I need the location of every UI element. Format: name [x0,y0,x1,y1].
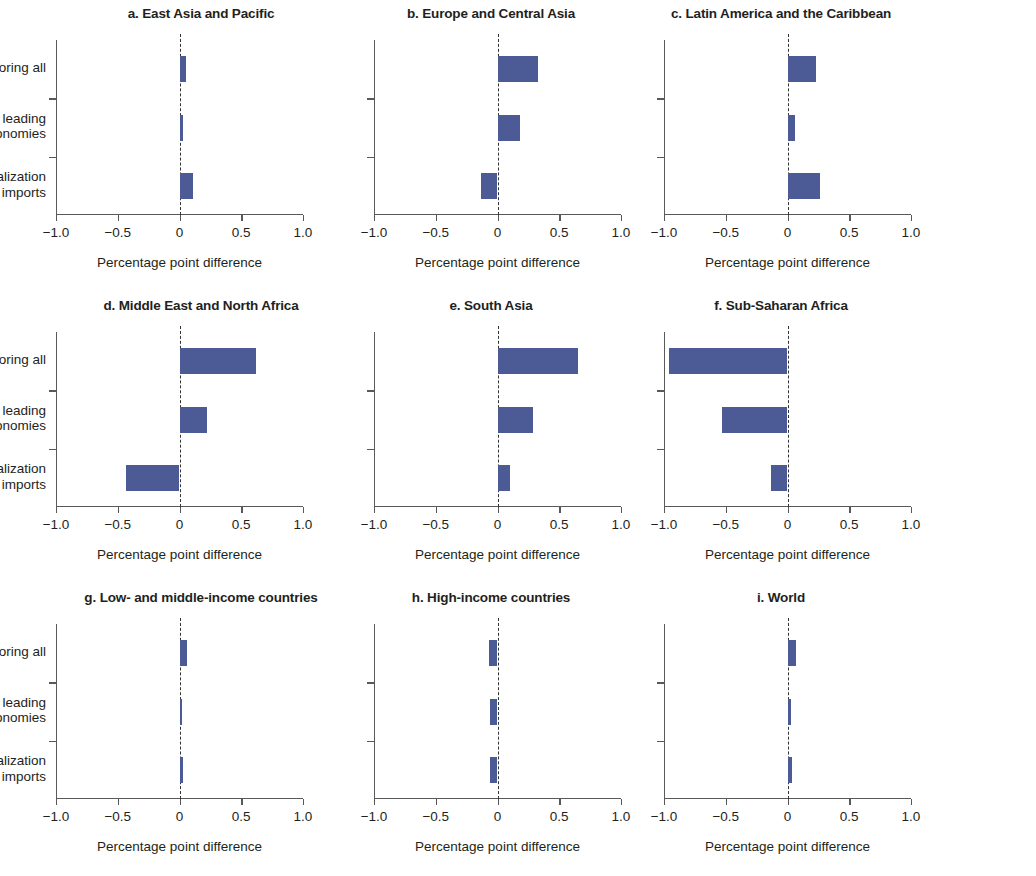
x-axis-tick-label: 0 [494,517,502,532]
bar-h-2 [490,757,497,783]
bar-g-0 [180,640,187,666]
y-axis-tick [367,741,374,742]
x-axis-tick-label: 0.5 [550,517,569,532]
x-axis-tick [303,507,304,513]
x-axis-tick-label: −0.5 [422,517,449,532]
bar-i-0 [788,640,797,666]
panel-c-title: c. Latin America and the Caribbean [636,6,926,21]
panel-h-xaxis-title: Percentage point difference [374,839,621,854]
x-axis-tick [56,799,57,805]
x-axis-tick-label: 1.0 [612,225,631,240]
x-axis-tick-label: 0 [176,809,184,824]
y-axis-tick [657,390,664,391]
panel-d-plot: −1.0−0.500.51.0 [56,332,303,507]
x-axis-tick-label: −1.0 [361,517,388,532]
bar-f-1 [722,407,787,433]
category-label-line: economies [0,126,46,142]
x-axis-tick [180,215,181,221]
x-axis-tick [118,799,119,805]
x-axis-tick [788,215,789,221]
x-axis-tick [664,799,665,805]
panel-a-plot: −1.0−0.500.51.0 [56,40,303,215]
bar-h-1 [490,699,497,725]
x-axis-tick-label: −1.0 [651,225,678,240]
x-axis-tick [788,799,789,805]
x-axis-tick-label: −0.5 [104,517,131,532]
y-axis-tick [49,157,56,158]
bar-b-2 [481,173,497,199]
zero-reference-line [788,326,789,507]
bar-h-0 [489,640,498,666]
y-axis-line [664,332,665,507]
panel-g-title: g. Low- and middle-income countries [56,590,346,605]
category-label-2: GVC-friendly liberalization+ TF imports [0,461,46,493]
category-label-line: GVC-friendly liberalization [0,461,46,477]
x-axis-tick-label: 1.0 [294,517,313,532]
x-axis-tick [303,799,304,805]
x-axis-tick [56,215,57,221]
y-axis-tick [657,449,664,450]
category-label-0: Reshoring all [0,352,46,368]
category-label-0: Reshoring all [0,60,46,76]
panel-g-plot: −1.0−0.500.51.0 [56,624,303,799]
x-axis-tick-label: 1.0 [902,225,921,240]
y-axis-tick [49,741,56,742]
x-axis-tick-label: −1.0 [43,809,70,824]
panel-f-plot: −1.0−0.500.51.0 [664,332,911,507]
panel-g: g. Low- and middle-income countries Resh… [0,584,346,876]
x-axis-tick [726,799,727,805]
x-axis-tick [118,215,119,221]
x-axis-tick-label: 1.0 [294,225,313,240]
x-axis-tick-label: 0.5 [232,517,251,532]
x-axis-tick [241,507,242,513]
y-axis-line [56,624,57,799]
y-axis-line [374,332,375,507]
category-label-line: Reshoring leading [0,695,46,711]
x-axis-tick [436,799,437,805]
y-axis-line [664,40,665,215]
x-axis-tick [56,507,57,513]
panel-g-xaxis-title: Percentage point difference [56,839,303,854]
panel-c: c. Latin America and the Caribbean −1.0−… [636,0,926,292]
x-axis-tick-label: −1.0 [651,809,678,824]
x-axis-tick [911,215,912,221]
y-axis-tick [657,682,664,683]
category-axis-labels-row2: Reshoring allReshoring leadingeconomiesG… [0,332,52,507]
x-axis-tick-label: 0.5 [840,225,859,240]
category-label-line: Reshoring all [0,60,46,76]
x-axis-tick-label: −0.5 [104,809,131,824]
x-axis-tick-label: 1.0 [612,809,631,824]
panel-i-title: i. World [636,590,926,605]
x-axis-tick [849,215,850,221]
panel-e: e. South Asia −1.0−0.500.51.0 Percentage… [346,292,636,584]
panel-e-xaxis-title: Percentage point difference [374,547,621,562]
y-axis-tick [657,157,664,158]
x-axis-tick [726,507,727,513]
panel-e-title: e. South Asia [346,298,636,313]
panel-c-plot: −1.0−0.500.51.0 [664,40,911,215]
x-axis-tick-label: −1.0 [43,225,70,240]
x-axis-tick [303,215,304,221]
category-label-1: Reshoring leadingeconomies [0,695,46,727]
category-label-line: economies [0,418,46,434]
x-axis-tick-label: −1.0 [361,809,388,824]
category-label-line: Reshoring all [0,352,46,368]
category-label-line: + TF imports [0,477,46,493]
x-axis-tick [559,215,560,221]
x-axis-tick [374,799,375,805]
y-axis-tick [657,98,664,99]
category-label-line: GVC-friendly liberalization [0,753,46,769]
panel-a: a. East Asia and Pacific Reshoring allRe… [0,0,346,292]
bar-e-1 [498,407,534,433]
x-axis-tick-label: −0.5 [712,517,739,532]
panel-h-title: h. High-income countries [346,590,636,605]
x-axis-tick [849,507,850,513]
y-axis-tick [367,98,374,99]
x-axis-tick-label: 0 [176,517,184,532]
category-label-line: Reshoring leading [0,111,46,127]
panel-a-xaxis-title: Percentage point difference [56,255,303,270]
x-axis-tick [498,799,499,805]
y-axis-tick [367,449,374,450]
x-axis-tick-label: 0.5 [232,809,251,824]
x-axis-tick-label: 0 [784,225,792,240]
